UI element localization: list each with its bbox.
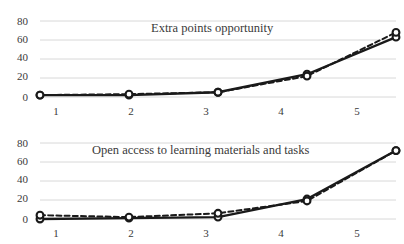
series-dashed-top <box>40 32 396 95</box>
markers-top <box>37 29 400 99</box>
chart-panel-top: Extra points opportunity 80 60 40 20 0 1… <box>0 0 404 122</box>
series-dashed-bottom <box>40 151 396 218</box>
plot-area-bottom <box>0 122 404 244</box>
series-solid-bottom <box>40 151 396 219</box>
series-solid-top <box>40 37 396 95</box>
line-chart-bottom <box>0 122 404 244</box>
markers-bottom <box>37 147 400 222</box>
plot-area-top <box>0 0 404 122</box>
line-chart-top <box>0 0 404 122</box>
chart-panel-bottom: Open access to learning materials and ta… <box>0 122 404 244</box>
chart-figure: Extra points opportunity 80 60 40 20 0 1… <box>0 0 404 244</box>
